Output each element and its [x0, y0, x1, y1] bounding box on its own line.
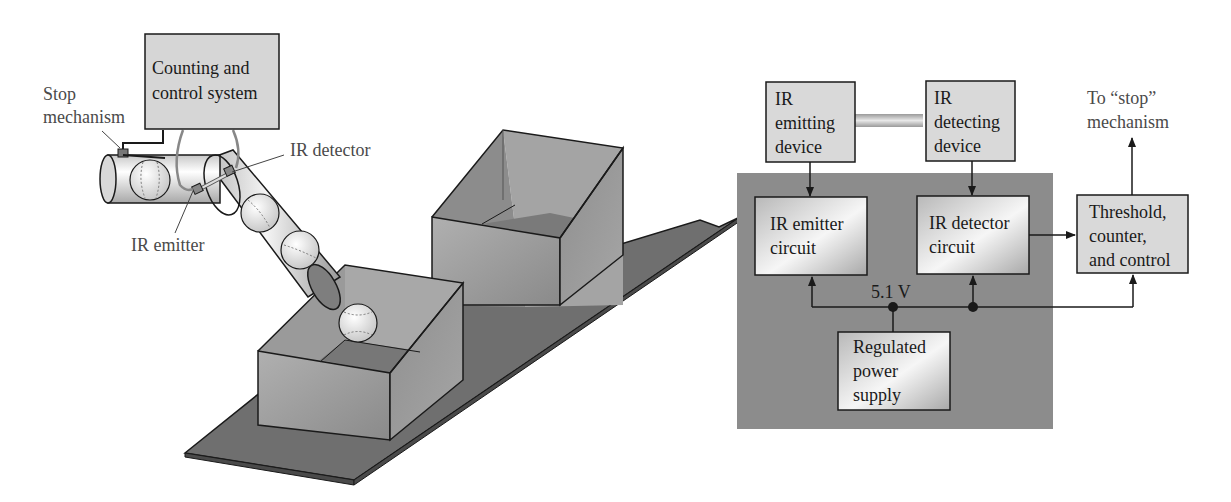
junction-dot	[888, 302, 898, 312]
counting-control-system-box: Counting and control system	[145, 34, 279, 129]
stop-mechanism-label-line1: Stop	[43, 84, 76, 104]
figure-canvas: Counting and control system Stop mechani…	[0, 0, 1231, 502]
junction-dot	[968, 302, 978, 312]
svg-text:Threshold,: Threshold,	[1089, 202, 1166, 222]
svg-text:IR detector: IR detector	[929, 213, 1009, 233]
ball-sorter-illustration: Counting and control system Stop mechani…	[43, 34, 740, 485]
svg-text:Regulated: Regulated	[853, 337, 926, 357]
control-box-label-line2: control system	[152, 83, 258, 103]
svg-text:power: power	[853, 361, 898, 381]
svg-text:and control: and control	[1089, 250, 1170, 270]
stop-output-label-line1: To “stop”	[1087, 88, 1156, 108]
stop-output-label-line2: mechanism	[1087, 112, 1169, 132]
stop-mechanism-part	[118, 130, 165, 158]
ir-emitter-label: IR emitter	[131, 235, 204, 255]
control-box-label-line1: Counting and	[152, 58, 250, 78]
threshold-counter-control-block: Threshold, counter, and control	[1077, 195, 1188, 273]
ir-detecting-device-block: IR detecting device	[926, 81, 1015, 161]
svg-text:supply: supply	[853, 385, 901, 405]
svg-text:circuit: circuit	[929, 237, 975, 257]
svg-text:circuit: circuit	[770, 238, 816, 258]
svg-text:IR: IR	[934, 88, 952, 108]
stop-mechanism-leader	[102, 131, 120, 148]
svg-text:emitting: emitting	[775, 113, 835, 133]
stop-mechanism-label-line2: mechanism	[43, 107, 125, 127]
svg-text:detecting: detecting	[934, 112, 1000, 132]
svg-text:device: device	[934, 136, 981, 156]
ir-emitter-circuit-block: IR emitter circuit	[755, 197, 867, 275]
ir-emitting-device-block: IR emitting device	[766, 82, 855, 162]
svg-text:IR emitter: IR emitter	[770, 214, 843, 234]
svg-text:IR: IR	[775, 89, 793, 109]
back-collection-bin	[432, 130, 623, 307]
voltage-label: 5.1 V	[871, 282, 911, 302]
ir-detector-label: IR detector	[290, 140, 370, 160]
ir-beam	[855, 114, 923, 127]
svg-text:device: device	[775, 137, 822, 157]
ir-detector-circuit-block: IR detector circuit	[917, 196, 1029, 274]
ir-counter-block-diagram: IR emitting device IR detecting device I…	[737, 81, 1188, 429]
svg-text:counter,: counter,	[1089, 226, 1147, 246]
falling-ball	[339, 304, 377, 342]
regulated-power-supply-block: Regulated power supply	[838, 332, 950, 410]
